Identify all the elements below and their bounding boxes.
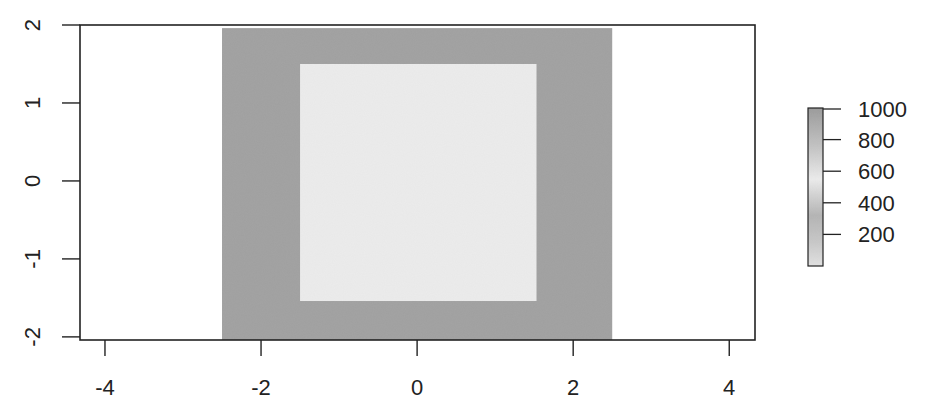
colorbar [808, 108, 823, 266]
y-tick-label: -2 [20, 327, 45, 347]
x-tick-label: 4 [723, 375, 735, 400]
x-tick-label: -4 [95, 375, 115, 400]
colorbar-legend: 2004006008001000 [808, 97, 907, 266]
colorbar-tick-label: 200 [858, 222, 895, 247]
heatmap-region-inner-square [300, 64, 536, 301]
colorbar-tick-label: 600 [858, 159, 895, 184]
x-axis: -4-2024 [95, 340, 735, 400]
x-tick-label: 0 [411, 375, 423, 400]
colorbar-tick-label: 400 [858, 191, 895, 216]
y-tick-label: -1 [20, 249, 45, 269]
colorbar-tick-label: 800 [858, 128, 895, 153]
y-axis: -2-1012 [20, 19, 80, 347]
x-tick-label: -2 [251, 375, 271, 400]
x-tick-label: 2 [567, 375, 579, 400]
colorbar-tick-label: 1000 [858, 97, 907, 122]
y-tick-label: 1 [20, 97, 45, 109]
y-tick-label: 2 [20, 19, 45, 31]
plot-area [80, 25, 755, 340]
y-tick-label: 0 [20, 175, 45, 187]
heatmap-chart: -4-2024 -2-1012 2004006008001000 [0, 0, 932, 418]
